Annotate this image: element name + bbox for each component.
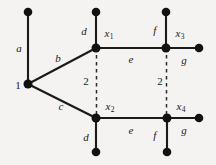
edge-label-e-bottom: e [128,125,133,136]
vertex-a-top [24,8,33,17]
edge-label-g-bottom: g [181,125,187,136]
vertex-f-top [162,8,171,17]
dashed-label-right: 2 [157,76,163,87]
vertex-g-end-bot [195,114,204,123]
vertex-x4 [163,114,172,123]
vertex-g-end-top [195,44,204,53]
edge-label-b: b [55,53,61,64]
vertex-label-1: 1 [15,80,21,91]
vertex-1 [24,80,33,89]
vertex-x3 [162,44,171,53]
edge-label-g-top: g [181,55,187,66]
edge-label-f-top: f [153,25,156,36]
vertex-d-top [92,8,101,17]
edge-label-d-bottom: d [83,132,89,143]
edge-label-f-bottom: f [153,130,156,141]
vertex-x1 [92,44,101,53]
diagram-canvas [0,0,216,165]
vertex-label-x2: x2 [105,101,114,112]
edge-label-c: c [58,101,63,112]
vertex-label-x1: x1 [104,28,113,39]
graph-diagram: 1 x1 x3 x2 x4 a b c d e f g d e f g 2 2 [0,0,216,165]
vertex-d-bottom [92,148,101,157]
edge-label-e-top: e [128,54,133,65]
vertex-label-x4: x4 [176,101,185,112]
dashed-label-left: 2 [83,76,89,87]
edge-label-d-top: d [81,26,87,37]
vertex-x2 [92,114,101,123]
vertex-f-bottom [163,148,172,157]
edge-label-a: a [16,43,22,54]
vertex-label-x3: x3 [175,28,184,39]
